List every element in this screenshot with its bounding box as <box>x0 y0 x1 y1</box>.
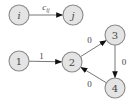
edge-1-2 <box>29 61 62 62</box>
edge-2-3 <box>80 41 106 57</box>
node-label-4: 4 <box>112 83 118 94</box>
graph-diagram: cij1000 ij1234 <box>0 0 136 104</box>
node-3: 3 <box>105 25 125 45</box>
edge-label-4-2: 0 <box>87 79 92 89</box>
node-i: i <box>9 5 29 25</box>
node-j: j <box>63 5 83 25</box>
nodes-layer: ij1234 <box>9 5 125 98</box>
node-2: 2 <box>62 52 82 72</box>
edge-label-2-3: 0 <box>87 35 92 45</box>
node-label-2: 2 <box>69 57 75 68</box>
edge-label-i-j: cij <box>42 2 50 13</box>
node-label-1: 1 <box>16 56 22 67</box>
edge-4-2 <box>81 67 106 82</box>
node-label-i: i <box>17 10 20 21</box>
node-label-3: 3 <box>112 30 118 41</box>
node-1: 1 <box>9 51 29 71</box>
node-4: 4 <box>105 78 125 98</box>
edge-label-3-4: 0 <box>122 57 127 67</box>
edge-label-1-2: 1 <box>39 51 44 61</box>
